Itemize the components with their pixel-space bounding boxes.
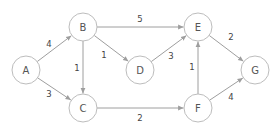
edge-line — [210, 78, 243, 100]
node-d: D — [126, 56, 154, 84]
node-e: E — [184, 13, 212, 41]
node-label: F — [195, 103, 201, 114]
nodes-layer: ABCDEFG — [12, 13, 269, 122]
node-g: G — [241, 56, 269, 84]
edge-d-e: 3 — [151, 36, 186, 62]
edge-weight-label: 2 — [228, 32, 233, 42]
node-c: C — [69, 94, 97, 122]
edge-line — [37, 36, 71, 62]
edge-weight-label: 2 — [137, 113, 142, 123]
edge-f-g: 4 — [210, 78, 243, 102]
edge-f-e: 1 — [189, 42, 198, 95]
edge-b-c: 1 — [74, 41, 83, 94]
node-f: F — [184, 94, 212, 122]
edge-c-f: 2 — [97, 108, 184, 123]
edge-a-b: 4 — [37, 36, 71, 62]
node-b: B — [69, 13, 97, 41]
edge-weight-label: 3 — [168, 51, 173, 61]
edge-weight-label: 3 — [46, 89, 51, 99]
edge-weight-label: 1 — [101, 50, 106, 60]
node-label: B — [80, 22, 87, 33]
node-label: G — [251, 65, 259, 76]
edge-weight-label: 1 — [74, 63, 79, 73]
edge-weight-label: 4 — [46, 39, 51, 49]
edge-weight-label: 5 — [137, 14, 142, 24]
edge-line — [94, 35, 128, 61]
node-label: E — [195, 22, 201, 33]
node-label: A — [23, 65, 30, 76]
node-label: D — [136, 65, 144, 76]
edge-b-d: 1 — [94, 35, 128, 61]
edge-line — [209, 35, 243, 61]
edge-weight-label: 4 — [228, 92, 233, 102]
node-a: A — [12, 56, 40, 84]
edge-b-e: 5 — [97, 14, 184, 27]
graph-diagram: 4311532124 ABCDEFG — [0, 0, 275, 130]
edge-e-g: 2 — [209, 32, 243, 61]
edge-weight-label: 1 — [189, 62, 194, 72]
edge-line — [38, 78, 71, 100]
node-label: C — [80, 103, 87, 114]
edge-a-c: 3 — [38, 78, 71, 100]
